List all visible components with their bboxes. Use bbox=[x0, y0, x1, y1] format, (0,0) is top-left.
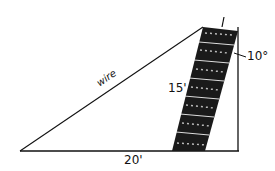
angle-pointer bbox=[234, 53, 246, 57]
leaning-tower-diagram: wire 15' 10° 20' bbox=[0, 0, 275, 171]
base-length-label: 20' bbox=[124, 154, 143, 166]
angle-label: 10° bbox=[247, 50, 268, 62]
tower-height-label: 15' bbox=[168, 82, 187, 94]
diagram-drawing bbox=[0, 0, 275, 171]
